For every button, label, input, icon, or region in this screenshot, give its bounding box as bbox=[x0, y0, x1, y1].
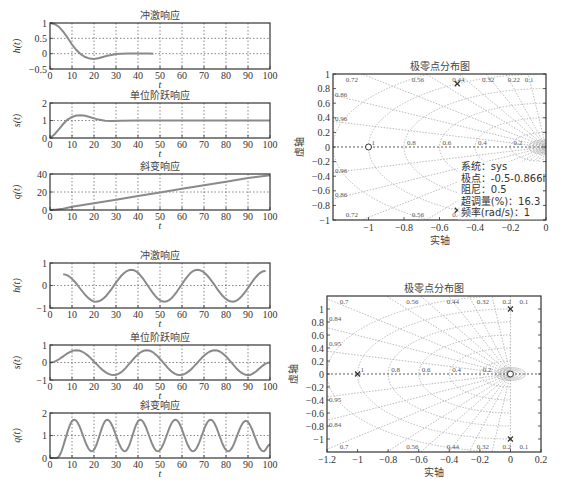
y-axis-label: q(t) bbox=[11, 428, 23, 443]
y-tick-label: 0 bbox=[42, 453, 47, 464]
chart-title: 冲激响应 bbox=[140, 9, 180, 21]
frequency-label: 0.8 bbox=[407, 139, 416, 147]
damping-label: 0.32 bbox=[477, 443, 490, 451]
x-tick-label: 100 bbox=[263, 381, 278, 392]
x-tick-label: 0 bbox=[48, 211, 53, 222]
damping-label: 0.86 bbox=[335, 191, 348, 199]
top-ramp-chart: 斜变响应010203040506070809010002040tq(t) bbox=[11, 160, 278, 231]
chart-title: 单位阶跃响应 bbox=[130, 331, 190, 343]
x-tick-label: 70 bbox=[199, 139, 209, 150]
datatip-line: 超调量(%)：16.3 bbox=[461, 195, 541, 207]
x-tick-label: 10 bbox=[67, 309, 77, 320]
frequency-label: 0.6 bbox=[443, 139, 452, 147]
bottom-ramp-chart: 斜变响应0102030405060708090100012tq(t) bbox=[11, 399, 278, 479]
y-tick-label: −1 bbox=[319, 215, 330, 226]
damping-label: 0.56 bbox=[406, 443, 419, 451]
x-tick-label: 0.2 bbox=[535, 454, 548, 465]
damping-label: 0.32 bbox=[482, 76, 495, 84]
damping-label: 0.84 bbox=[329, 421, 342, 429]
x-tick-label: 100 bbox=[263, 211, 278, 222]
y-axis-label: q(t) bbox=[11, 184, 23, 199]
y-tick-label: 0.8 bbox=[312, 317, 325, 328]
x-tick-label: −0.6 bbox=[430, 222, 448, 233]
frequency-label: 0.4 bbox=[452, 366, 461, 374]
damping-label: 0.44 bbox=[447, 298, 460, 306]
x-tick-label: 80 bbox=[221, 459, 231, 470]
chart-title: 极零点分布图 bbox=[404, 282, 464, 294]
x-tick-label: −1 bbox=[363, 222, 374, 233]
x-tick-label: 40 bbox=[133, 211, 143, 222]
damping-label: 0.96 bbox=[335, 115, 348, 123]
x-tick-label: 60 bbox=[177, 309, 187, 320]
figure-canvas: 冲激响应0102030405060708090100−0.500.51th(t)… bbox=[0, 0, 563, 491]
x-tick-label: 90 bbox=[243, 309, 253, 320]
zero-marker[interactable] bbox=[507, 371, 513, 377]
damping-label: 0.1 bbox=[520, 443, 529, 451]
x-tick-label: −0.4 bbox=[440, 454, 458, 465]
y-tick-label: 0.2 bbox=[318, 127, 331, 138]
damping-label: 0.56 bbox=[412, 211, 425, 219]
top-impulse-chart: 冲激响应0102030405060708090100−0.500.51th(t) bbox=[11, 9, 278, 90]
x-tick-label: 70 bbox=[199, 70, 209, 81]
chart-title: 斜变响应 bbox=[140, 399, 180, 411]
y-tick-label: 0 bbox=[42, 133, 47, 144]
damping-label: 0.32 bbox=[477, 298, 490, 306]
x-tick-label: 30 bbox=[111, 459, 121, 470]
y-tick-label: 0 bbox=[325, 142, 330, 153]
damping-label: 0.1 bbox=[520, 298, 529, 306]
y-tick-label: 0.5 bbox=[35, 33, 48, 44]
x-tick-label: 80 bbox=[221, 309, 231, 320]
frequency-label: 0.8 bbox=[391, 366, 400, 374]
x-tick-label: 90 bbox=[243, 70, 253, 81]
x-tick-label: 40 bbox=[133, 309, 143, 320]
y-axis-label: 虚轴 bbox=[287, 364, 299, 384]
damping-label: 0.7 bbox=[340, 443, 349, 451]
x-tick-label: −0.8 bbox=[395, 222, 413, 233]
y-tick-label: 0 bbox=[42, 357, 47, 368]
x-tick-label: 90 bbox=[243, 459, 253, 470]
x-tick-label: 70 bbox=[199, 211, 209, 222]
frequency-label: 0.2 bbox=[514, 139, 523, 147]
damping-label: 0.95 bbox=[329, 340, 342, 348]
chart-title: 极零点分布图 bbox=[410, 60, 470, 72]
x-tick-label: 70 bbox=[199, 381, 209, 392]
y-tick-label: 1 bbox=[325, 69, 330, 80]
x-tick-label: 60 bbox=[177, 459, 187, 470]
x-tick-label: 30 bbox=[111, 309, 121, 320]
x-tick-label: −1.2 bbox=[318, 454, 336, 465]
frequency-label: 0.4 bbox=[478, 139, 487, 147]
pole-datatip: 系统：sys极点：-0.5-0.866i阻尼：0.5超调量(%)：16.3频率(… bbox=[458, 160, 546, 219]
y-tick-label: −0.5 bbox=[29, 64, 47, 75]
x-tick-label: 60 bbox=[177, 381, 187, 392]
y-axis-label: s(t) bbox=[11, 113, 23, 127]
x-tick-label: 80 bbox=[221, 381, 231, 392]
x-tick-label: 30 bbox=[111, 211, 121, 222]
y-tick-label: 0.8 bbox=[318, 83, 331, 94]
x-axis-label: t bbox=[159, 468, 162, 479]
x-tick-label: 90 bbox=[243, 139, 253, 150]
x-tick-label: 0 bbox=[48, 70, 53, 81]
frequency-label: 1 bbox=[361, 366, 365, 374]
x-tick-label: 60 bbox=[177, 139, 187, 150]
x-tick-label: 80 bbox=[221, 211, 231, 222]
x-tick-label: 0 bbox=[508, 454, 513, 465]
damping-label: 0.96 bbox=[335, 167, 348, 175]
x-tick-label: 80 bbox=[221, 70, 231, 81]
pole-marker[interactable] bbox=[508, 307, 513, 312]
bottom-impulse-chart: 冲激响应0102030405060708090100−101th(t) bbox=[11, 249, 278, 329]
zero-marker[interactable] bbox=[366, 144, 372, 150]
datatip-line: 系统：sys bbox=[461, 160, 507, 172]
y-tick-label: 2 bbox=[42, 408, 47, 419]
y-tick-label: 1 bbox=[319, 304, 324, 315]
y-tick-label: −0.2 bbox=[312, 156, 330, 167]
y-tick-label: 2 bbox=[42, 98, 47, 109]
chart-title: 冲激响应 bbox=[140, 249, 180, 261]
y-tick-label: −1 bbox=[36, 303, 47, 314]
y-tick-label: 0.6 bbox=[318, 98, 331, 109]
x-tick-label: 100 bbox=[263, 459, 278, 470]
x-tick-label: 40 bbox=[133, 139, 143, 150]
x-axis-label: t bbox=[159, 220, 162, 231]
damping-label: 0.72 bbox=[346, 211, 359, 219]
x-axis-label: 实轴 bbox=[430, 234, 450, 246]
y-tick-label: −0.4 bbox=[312, 171, 330, 182]
